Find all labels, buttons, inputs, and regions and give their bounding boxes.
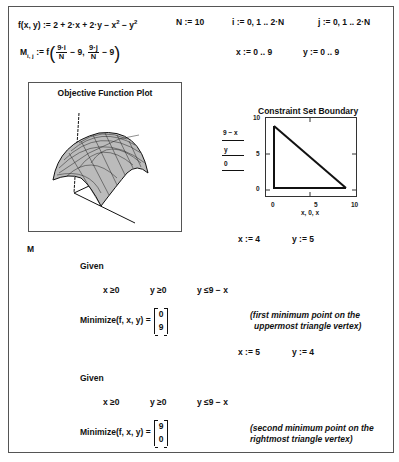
constraint-plot-title: Constraint Set Boundary	[258, 106, 358, 116]
note-second-minimum-line2: rightmost triangle vertex)	[250, 434, 353, 444]
i-range-definition[interactable]: i := 0, 1 .. 2·N	[232, 17, 284, 27]
objective-function-plot[interactable]: Objective Function Plot	[28, 82, 182, 232]
minus-nine-a: − 9,	[68, 47, 87, 57]
legend-line-2	[222, 155, 244, 156]
note-first-minimum-line1: (first minimum point on the	[250, 310, 360, 320]
close-paren: )	[114, 43, 120, 63]
open-paren: (	[49, 43, 55, 63]
result-2-y: 0	[159, 433, 164, 446]
minimize-call-2: Minimize(f, x, y) =	[80, 427, 151, 437]
function-definition[interactable]: f(x, y) := 2 + 2·x + 2·y − x2 − y2	[18, 17, 137, 30]
fraction-i: 9·iN	[56, 44, 67, 61]
x-range-definition[interactable]: x := 0 .. 9	[236, 47, 272, 57]
surface-data-label: M	[27, 244, 34, 254]
note-second-minimum-line1: (second minimum point on the	[250, 423, 374, 433]
minimize-call-1: Minimize(f, x, y) =	[80, 315, 151, 325]
guess-x-2[interactable]: x := 5	[238, 347, 260, 357]
m-subscript: i, j	[27, 53, 34, 59]
legend-item-zero: 0	[224, 159, 228, 169]
given-keyword-1[interactable]: Given	[80, 261, 104, 271]
legend-item-9-minus-x: 9 − x	[223, 128, 238, 138]
constraint-triangle-graphic	[266, 118, 356, 196]
fraction-j: 9·jN	[88, 44, 99, 61]
minus-nine-b: − 9	[100, 47, 114, 57]
guess-x-1[interactable]: x := 4	[238, 234, 260, 244]
note-first-minimum-line2: uppermost triangle vertex)	[254, 321, 361, 331]
frac-i-den: N	[59, 53, 64, 61]
constraint-y-nonneg-2[interactable]: y ≥0	[150, 397, 166, 407]
x-tick-0: 0	[271, 201, 275, 208]
result-1-x: 0	[159, 308, 164, 321]
result-vector-2: 90	[154, 420, 169, 446]
function-def-tail: − y	[120, 20, 134, 30]
x-tick-10: 10	[351, 201, 358, 208]
y-tick-0: 0	[256, 185, 260, 192]
guess-y-1[interactable]: y := 5	[292, 234, 314, 244]
constraint-upper-1[interactable]: y ≤9 − x	[197, 285, 228, 295]
frac-j-den: N	[91, 53, 96, 61]
legend-item-y: y	[224, 145, 228, 155]
minimize-expression-1[interactable]: Minimize(f, x, y) =09	[80, 306, 168, 334]
result-1-y: 9	[159, 321, 164, 334]
legend-line-1	[222, 140, 244, 141]
y-range-definition[interactable]: y := 0 .. 9	[303, 47, 339, 57]
constraint-y-nonneg-1[interactable]: y ≥0	[150, 285, 166, 295]
guess-y-2[interactable]: y := 4	[292, 347, 314, 357]
exponent-y: 2	[134, 19, 137, 25]
function-def-text: f(x, y) := 2 + 2·x + 2·y − x	[18, 20, 116, 30]
x-axis-label: x, 0, x	[301, 209, 319, 216]
minimize-expression-2[interactable]: Minimize(f, x, y) =90	[80, 418, 168, 446]
x-tick-5: 5	[314, 201, 318, 208]
y-tick-5: 5	[256, 150, 260, 157]
matrix-definition[interactable]: Mi, j := f(9·iN − 9, 9·jN − 9)	[20, 42, 120, 66]
constraint-set-plot[interactable]	[265, 117, 357, 197]
constraint-x-nonneg-2[interactable]: x ≥0	[103, 397, 119, 407]
legend-line-3	[222, 170, 244, 171]
given-keyword-2[interactable]: Given	[80, 373, 104, 383]
surface-mesh-graphic	[29, 83, 181, 231]
constraint-x-nonneg-1[interactable]: x ≥0	[103, 285, 119, 295]
y-tick-10: 10	[253, 114, 260, 121]
n-definition[interactable]: N := 10	[176, 17, 204, 27]
result-vector-1: 09	[154, 308, 169, 334]
result-2-x: 9	[159, 420, 164, 433]
j-range-definition[interactable]: j := 0, 1 .. 2·N	[318, 17, 370, 27]
assign-f: := f	[34, 47, 49, 57]
constraint-upper-2[interactable]: y ≤9 − x	[197, 397, 228, 407]
